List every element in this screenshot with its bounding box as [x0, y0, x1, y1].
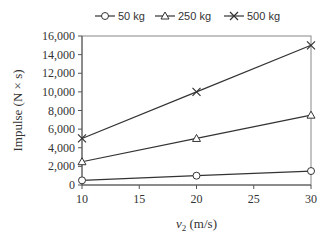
y-axis-title: Impulse (N × s): [10, 69, 25, 151]
triangle-marker: [307, 111, 315, 118]
x-tick-label: 15: [133, 192, 145, 206]
y-tick-label: 14,000: [42, 48, 75, 62]
legend-label: 50 kg: [118, 10, 145, 22]
series-500-kg: [78, 41, 315, 142]
legend-label: 250 kg: [178, 10, 211, 22]
series-50-kg: [79, 168, 315, 184]
plot-area: [82, 36, 311, 185]
legend-item: 50 kg: [95, 10, 145, 22]
series-250-kg: [78, 111, 315, 165]
legend-item: 250 kg: [155, 10, 211, 22]
legend-label: 500 kg: [247, 10, 280, 22]
circle-marker: [308, 168, 315, 175]
legend: 50 kg250 kg500 kg: [95, 10, 280, 22]
x-tick-label: 20: [191, 192, 203, 206]
y-tick-label: 6,000: [48, 122, 75, 136]
y-tick-label: 2,000: [48, 159, 75, 173]
x-marker: [193, 88, 201, 96]
y-tick-label: 12,000: [42, 66, 75, 80]
line-chart: 02,0004,0006,0008,00010,00012,00014,0001…: [0, 0, 331, 235]
circle-marker: [193, 172, 200, 179]
y-tick-label: 4,000: [48, 141, 75, 155]
y-tick-label: 10,000: [42, 85, 75, 99]
x-tick-label: 25: [248, 192, 260, 206]
legend-circle-icon: [102, 13, 109, 20]
x-tick-label: 30: [305, 192, 317, 206]
legend-item: 500 kg: [224, 10, 280, 22]
y-tick-label: 0: [69, 178, 75, 192]
y-tick-label: 16,000: [42, 29, 75, 43]
x-tick-label: 10: [76, 192, 88, 206]
x-axis-title: v2 (m/s): [176, 216, 217, 233]
circle-marker: [79, 177, 86, 184]
y-tick-label: 8,000: [48, 104, 75, 118]
